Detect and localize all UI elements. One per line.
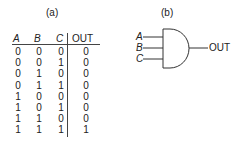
output-label: OUT: [209, 43, 230, 53]
input-a-label: A: [136, 31, 143, 42]
input-b-label: B: [136, 42, 143, 53]
and-gate-icon: [0, 0, 239, 148]
input-c-label: C: [136, 53, 143, 64]
